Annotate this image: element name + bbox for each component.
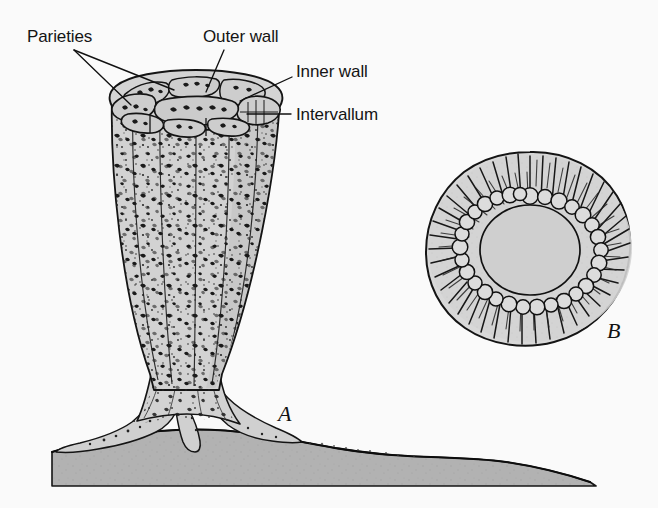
label-inner-wall: Inner wall (296, 63, 368, 80)
part-label-b: B (607, 320, 620, 342)
label-intervallum: Intervallum (296, 106, 378, 123)
central-cavity (480, 205, 580, 295)
label-parieties: Parieties (27, 28, 92, 45)
part-label-a: A (278, 403, 291, 425)
figure-root: Parieties Outer wall Inner wall Interval… (0, 0, 658, 508)
label-outer-wall: Outer wall (203, 28, 279, 45)
